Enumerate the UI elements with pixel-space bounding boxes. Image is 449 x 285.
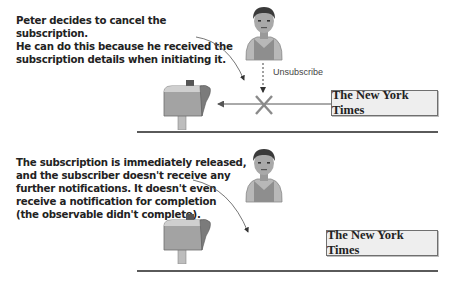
unsubscribe-panel: Peter decides to cancel the subscription… [0, 0, 449, 142]
caption-pointer-arrow [0, 0, 449, 142]
person-icon [243, 146, 285, 204]
timeline-divider [137, 270, 438, 272]
publisher-box: The New York Times [331, 90, 438, 116]
released-panel: The subscription is immediately released… [0, 142, 449, 285]
x-mark-icon [254, 94, 274, 116]
publisher-box: The New York Times [326, 230, 438, 256]
caption-pointer-arrow [0, 142, 449, 285]
unsubscribe-label: Unsubscribe [273, 67, 323, 77]
timeline-divider [137, 131, 438, 133]
mailbox-icon [160, 78, 218, 130]
person-icon [243, 4, 285, 62]
mailbox-icon [160, 212, 218, 264]
